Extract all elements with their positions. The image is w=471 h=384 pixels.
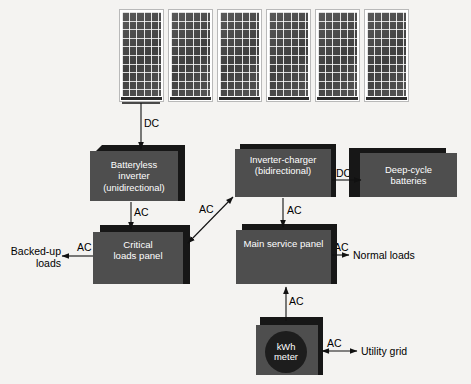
solar-panel-frame-foot — [366, 97, 407, 100]
node-line: batteries — [385, 175, 432, 186]
node-label-critical-loads-panel: Critical loads panel — [93, 232, 183, 284]
edge-label-ac-charger-main: AC — [287, 204, 302, 216]
edge-label-ac-diagonal: AC — [199, 203, 214, 215]
solar-panel-cells — [269, 12, 308, 96]
node-kwh-meter: kWh meter — [256, 325, 318, 375]
solar-panel-cells — [367, 12, 406, 96]
node-line: (bidirectional) — [250, 165, 317, 176]
edge-label-ac-utility: AC — [327, 337, 342, 349]
node-line: Critical — [113, 239, 162, 250]
node-label-deep-cycle-batteries: Deep-cycle batteries — [360, 153, 457, 197]
node-line: Inverter-charger — [250, 154, 317, 165]
solar-panel-frame-foot — [170, 97, 211, 100]
label-line: Backed-up — [4, 245, 61, 257]
box-right-face — [331, 224, 337, 284]
node-line: meter — [274, 352, 298, 362]
label-normal-loads: Normal loads — [353, 249, 415, 261]
solar-panel — [119, 9, 164, 102]
node-label-batteryless-inverter: Batteryless inverter (unidirectional) — [90, 151, 178, 201]
solar-panel — [217, 9, 262, 102]
solar-panel-frame-foot — [268, 97, 309, 100]
node-line: Batteryless — [103, 159, 165, 170]
solar-panel-cells — [318, 12, 357, 96]
node-line: inverter — [103, 170, 165, 181]
node-line: (unidirectional) — [103, 182, 165, 193]
node-line: loads panel — [113, 250, 162, 261]
box-right-face — [178, 145, 185, 201]
solar-panel-cells — [122, 12, 161, 96]
box-right-face — [331, 144, 336, 197]
edge-label-ac-backed-up: AC — [77, 241, 92, 253]
solar-panel-frame-foot — [317, 97, 358, 100]
solar-panel-frame-foot — [219, 97, 260, 100]
node-label-inverter-charger: Inverter-charger (bidirectional) — [235, 149, 331, 197]
solar-panel — [168, 9, 213, 102]
label-line: loads — [4, 257, 61, 269]
box-top-face — [100, 225, 190, 232]
solar-panel-cells — [171, 12, 210, 96]
solar-panel-frame-foot — [121, 97, 162, 100]
kwh-meter-dial: kWh meter — [265, 331, 307, 373]
node-label-main-service-panel: Main service panel — [236, 230, 331, 284]
edge-label-dc-array: DC — [144, 117, 159, 129]
edge-label-ac-inverter-critical: AC — [134, 206, 149, 218]
solar-panel-cells — [220, 12, 259, 96]
box-right-face — [183, 225, 190, 284]
edge-label-ac-meter-main: AC — [289, 295, 304, 307]
node-line: Main service panel — [244, 238, 324, 249]
node-main-service-panel: Main service panel — [236, 230, 331, 284]
box-right-face — [318, 317, 323, 375]
label-backed-up-loads: Backed-up loads — [4, 245, 61, 269]
system-block-diagram: Batteryless inverter (unidirectional) In… — [0, 0, 471, 384]
solar-panel — [315, 9, 360, 102]
label-utility-grid: Utility grid — [361, 345, 407, 357]
node-line: Deep-cycle — [385, 164, 432, 175]
node-batteryless-inverter: Batteryless inverter (unidirectional) — [90, 151, 178, 201]
solar-panel — [266, 9, 311, 102]
solar-panel — [364, 9, 409, 102]
node-inverter-charger: Inverter-charger (bidirectional) — [235, 149, 331, 197]
node-critical-loads-panel: Critical loads panel — [93, 232, 183, 284]
node-deep-cycle-batteries: Deep-cycle batteries — [360, 153, 457, 197]
